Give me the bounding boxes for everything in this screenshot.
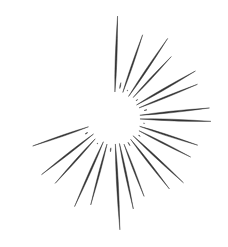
- ray-12: [144, 123, 145, 124]
- starburst-artboard: [0, 0, 228, 247]
- starburst-illustration: [0, 0, 228, 247]
- ray-03: [127, 90, 128, 91]
- canvas-background: [0, 0, 228, 247]
- ray-25: [97, 143, 98, 144]
